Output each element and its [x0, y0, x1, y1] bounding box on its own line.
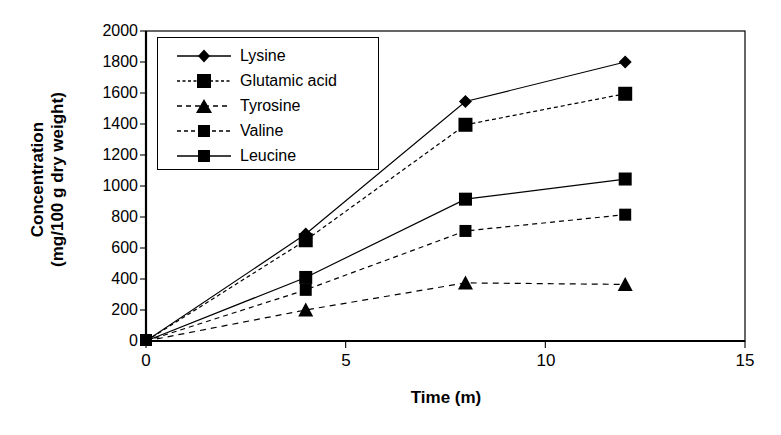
legend-swatch-glutamic-acid: [176, 71, 232, 91]
data-point-tyrosine: [458, 275, 473, 289]
data-point-lysine: [619, 56, 632, 69]
chart-legend: Lysine Glutamic acid Tyrosine Valine Leu…: [157, 37, 379, 170]
data-point-valine: [619, 209, 631, 221]
legend-swatch-lysine: [176, 46, 232, 66]
legend-item-tyrosine: Tyrosine: [158, 93, 378, 118]
data-point-valine: [300, 284, 312, 296]
legend-label-tyrosine: Tyrosine: [240, 97, 300, 115]
legend-item-leucine: Leucine: [158, 143, 378, 168]
data-point-glutamic-acid: [618, 87, 632, 101]
plot-area: [0, 0, 781, 435]
legend-label-valine: Valine: [240, 122, 283, 140]
data-point-leucine: [619, 173, 632, 186]
legend-item-valine: Valine: [158, 118, 378, 143]
data-point-glutamic-acid: [299, 233, 313, 247]
legend-item-glutamic-acid: Glutamic acid: [158, 68, 378, 93]
legend-swatch-tyrosine: [176, 96, 232, 116]
series-line-valine: [146, 215, 625, 341]
legend-swatch-valine: [176, 121, 232, 141]
data-point-leucine: [459, 193, 472, 206]
chart-figure: Concentration (mg/100 g dry weight) 2000…: [0, 0, 781, 435]
data-point-glutamic-acid: [458, 118, 472, 132]
legend-label-glutamic-acid: Glutamic acid: [240, 72, 337, 90]
data-point-leucine: [299, 271, 312, 284]
data-point-tyrosine: [618, 277, 633, 291]
legend-item-lysine: Lysine: [158, 43, 378, 68]
legend-label-leucine: Leucine: [240, 147, 296, 165]
data-point-valine: [459, 225, 471, 237]
legend-swatch-leucine: [176, 146, 232, 166]
legend-label-lysine: Lysine: [240, 47, 286, 65]
origin-marker-cluster: [140, 334, 152, 346]
